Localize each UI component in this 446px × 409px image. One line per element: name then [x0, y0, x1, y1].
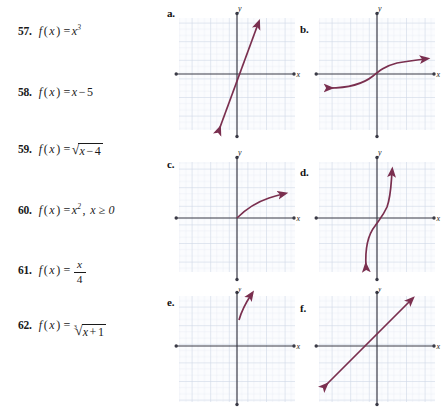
problem-number: 60. — [18, 204, 32, 216]
radical-index: 3 — [74, 323, 77, 330]
problem-expression: f(x)=x3 — [39, 24, 81, 39]
constant: 5 — [87, 85, 93, 99]
exponent: 3 — [77, 23, 81, 32]
graph-panel-d: d. — [313, 150, 441, 286]
axis-label-x: x — [295, 70, 300, 79]
problem-list: 57. f(x)=x3 58. f(x)=x−5 59. f(x)=√x−4 6… — [0, 0, 165, 409]
cube-root-radical: 3√x+1 — [72, 324, 106, 339]
panel-letter-c: c. — [167, 158, 174, 170]
panel-letter-d: d. — [300, 166, 308, 178]
graph-b-svg: x y — [313, 4, 441, 144]
domain-restriction: x ≥ 0 — [90, 203, 114, 217]
problem-number: 62. — [18, 319, 32, 331]
problem-number: 61. — [18, 264, 32, 276]
panel-letter-a: a. — [167, 7, 175, 19]
graph-panel-f: f. — [313, 288, 441, 408]
graph-panel-grid: a. — [165, 0, 446, 409]
axis-label-x: x — [435, 342, 440, 351]
problem-item-57: 57. f(x)=x3 — [18, 24, 168, 39]
axis-label-y: y — [237, 150, 242, 157]
axis-label-x: x — [295, 214, 300, 223]
graph-panel-a: a. — [173, 4, 301, 144]
axis-label-y: y — [237, 4, 242, 13]
problem-expression: f(x)=x4 — [39, 258, 88, 284]
graph-e-svg: x y — [173, 288, 301, 408]
axis-label-y: y — [377, 288, 382, 293]
graph-panel-e: e. — [173, 288, 301, 408]
graph-panel-b: b. — [313, 4, 441, 144]
problem-expression: f(x)=√x−4 — [39, 142, 103, 157]
axis-label-y: y — [377, 4, 382, 13]
graph-panel-c: c. — [173, 150, 301, 286]
fraction-denominator: 4 — [74, 273, 86, 285]
problem-item-59: 59. f(x)=√x−4 — [18, 142, 168, 157]
minus-operator: − — [77, 85, 87, 99]
problem-expression: f(x)=x−5 — [39, 85, 93, 100]
problem-item-62: 62. f(x)=3√x+1 — [18, 318, 168, 338]
axis-label-x: x — [435, 70, 440, 79]
fraction-numerator: x — [74, 259, 85, 271]
problem-item-60: 60. f(x)=x2, x ≥ 0 — [18, 203, 168, 218]
problem-expression: f(x)=3√x+1 — [39, 318, 106, 338]
panel-letter-f: f. — [300, 302, 306, 314]
graph-d-svg: x y — [313, 150, 441, 286]
graph-c-svg: x y — [173, 150, 301, 286]
panel-letter-e: e. — [167, 296, 174, 308]
square-root-radical: √x−4 — [72, 143, 103, 158]
axis-label-x: x — [435, 214, 440, 223]
panel-letter-b: b. — [300, 23, 308, 35]
axis-label-y: y — [377, 150, 382, 157]
problem-expression: f(x)=x2, x ≥ 0 — [39, 203, 115, 218]
axis-label-y: y — [237, 288, 242, 293]
fraction: x4 — [74, 259, 86, 285]
problem-number: 59. — [18, 143, 32, 155]
problem-item-58: 58. f(x)=x−5 — [18, 85, 168, 100]
problem-item-61: 61. f(x)=x4 — [18, 258, 168, 284]
problem-number: 57. — [18, 25, 32, 37]
problem-number: 58. — [18, 86, 32, 98]
axis-label-x: x — [295, 342, 300, 351]
graph-a-svg: x y — [173, 4, 301, 144]
graph-f-svg: x y — [313, 288, 441, 408]
